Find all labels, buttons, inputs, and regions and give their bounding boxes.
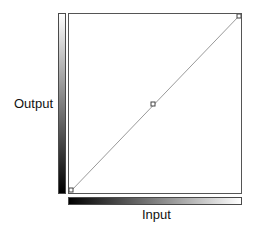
input-axis-label: Input xyxy=(142,207,171,222)
curve-point-black[interactable] xyxy=(69,188,73,192)
curves-graph[interactable] xyxy=(68,13,242,194)
curve-point-mid[interactable] xyxy=(151,102,155,106)
output-gradient-bar xyxy=(58,13,66,194)
curve-plot[interactable] xyxy=(69,14,241,193)
input-gradient-bar xyxy=(68,197,242,205)
output-axis-label: Output xyxy=(14,96,53,111)
curve-point-white[interactable] xyxy=(237,14,241,18)
